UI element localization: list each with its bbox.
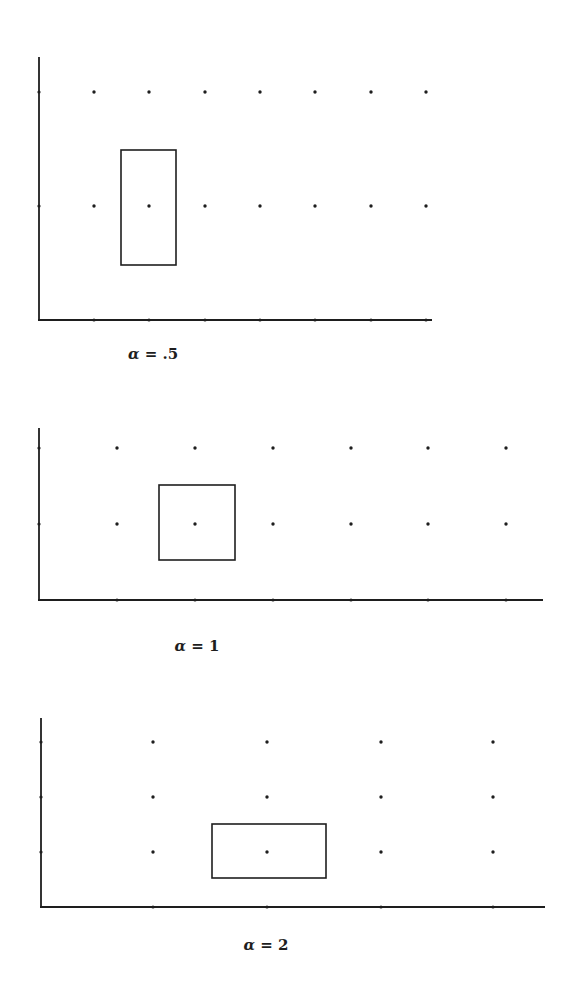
- cell-rectangle: [159, 485, 235, 560]
- lattice-point: [258, 90, 261, 93]
- equals-sign: =: [186, 637, 209, 655]
- lattice-point: [379, 740, 382, 743]
- lattice-point: [193, 446, 196, 449]
- alpha-value: 2: [278, 936, 288, 954]
- lattice-point: [92, 204, 95, 207]
- x-axis-tick: [271, 598, 274, 601]
- panel-alpha-2: [39, 718, 545, 909]
- x-axis-tick: [258, 318, 261, 321]
- lattice-point: [491, 795, 494, 798]
- equals-sign: =: [139, 345, 162, 363]
- lattice-point: [369, 204, 372, 207]
- cell-rectangle: [212, 824, 326, 878]
- x-axis-tick: [504, 598, 507, 601]
- lattice-point: [151, 850, 154, 853]
- lattice-point: [92, 90, 95, 93]
- x-axis-tick: [151, 905, 154, 908]
- lattice-point: [265, 850, 268, 853]
- lattice-point: [115, 522, 118, 525]
- lattice-point: [258, 204, 261, 207]
- x-axis-tick: [193, 598, 196, 601]
- y-axis-tick: [37, 204, 40, 207]
- lattice-point: [271, 446, 274, 449]
- lattice-point: [147, 90, 150, 93]
- y-axis-tick: [37, 90, 40, 93]
- lattice-point: [349, 446, 352, 449]
- lattice-point: [271, 522, 274, 525]
- x-axis-tick: [369, 318, 372, 321]
- lattice-point: [147, 204, 150, 207]
- x-axis-tick: [349, 598, 352, 601]
- lattice-point: [265, 740, 268, 743]
- lattice-point: [379, 850, 382, 853]
- lattice-point: [203, 90, 206, 93]
- lattice-point: [426, 446, 429, 449]
- lattice-point: [115, 446, 118, 449]
- lattice-point: [424, 204, 427, 207]
- x-axis-tick: [203, 318, 206, 321]
- lattice-point: [491, 850, 494, 853]
- x-axis-tick: [92, 318, 95, 321]
- x-axis-tick: [424, 318, 427, 321]
- x-axis-tick: [379, 905, 382, 908]
- alpha-value: .5: [162, 345, 178, 363]
- panel-label-alpha-0-5: α = .5: [128, 345, 178, 363]
- lattice-point: [151, 795, 154, 798]
- x-axis-tick: [313, 318, 316, 321]
- y-axis-tick: [39, 740, 42, 743]
- equals-sign: =: [255, 936, 278, 954]
- y-axis-tick: [39, 795, 42, 798]
- lattice-point: [265, 795, 268, 798]
- lattice-point: [369, 90, 372, 93]
- y-axis-tick: [37, 522, 40, 525]
- panel-alpha-0-5: [37, 57, 432, 322]
- lattice-point: [379, 795, 382, 798]
- alpha-symbol: α: [128, 345, 140, 363]
- panel-label-alpha-1: α = 1: [175, 637, 220, 655]
- lattice-point: [349, 522, 352, 525]
- lattice-point: [426, 522, 429, 525]
- lattice-point: [193, 522, 196, 525]
- x-axis-tick: [491, 905, 494, 908]
- lattice-point: [151, 740, 154, 743]
- x-axis-tick: [265, 905, 268, 908]
- x-axis-tick: [115, 598, 118, 601]
- lattice-point: [504, 522, 507, 525]
- lattice-point: [313, 90, 316, 93]
- lattice-point: [424, 90, 427, 93]
- panel-alpha-1: [37, 428, 543, 602]
- lattice-point: [491, 740, 494, 743]
- lattice-figure: [0, 0, 572, 985]
- y-axis-tick: [39, 850, 42, 853]
- alpha-symbol: α: [244, 936, 256, 954]
- lattice-point: [504, 446, 507, 449]
- lattice-point: [203, 204, 206, 207]
- y-axis-tick: [37, 446, 40, 449]
- x-axis-tick: [147, 318, 150, 321]
- lattice-point: [313, 204, 316, 207]
- panel-label-alpha-2: α = 2: [244, 936, 289, 954]
- x-axis-tick: [426, 598, 429, 601]
- alpha-value: 1: [209, 637, 219, 655]
- alpha-symbol: α: [175, 637, 187, 655]
